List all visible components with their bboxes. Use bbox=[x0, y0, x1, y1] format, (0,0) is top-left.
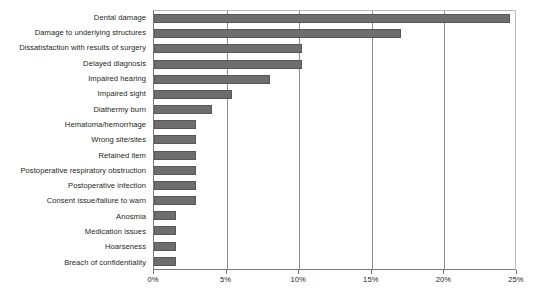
bar bbox=[154, 135, 196, 144]
bar-row bbox=[154, 26, 515, 41]
bar bbox=[154, 90, 232, 99]
bar bbox=[154, 14, 510, 23]
bar bbox=[154, 60, 302, 69]
category-label: Impaired sight bbox=[0, 86, 150, 101]
category-label: Anosmia bbox=[0, 209, 150, 224]
axis-tick-label: 10% bbox=[291, 275, 306, 284]
bar-row bbox=[154, 57, 515, 72]
bar bbox=[154, 29, 401, 38]
bar bbox=[154, 166, 196, 175]
category-label: Breach of confidentiality bbox=[0, 255, 150, 270]
bar bbox=[154, 75, 270, 84]
bar bbox=[154, 211, 176, 220]
category-label: Medication issues bbox=[0, 224, 150, 239]
category-axis-labels: Dental damageDamage to underlying struct… bbox=[0, 10, 150, 270]
bar-row bbox=[154, 178, 515, 193]
axis-tick-label: 15% bbox=[363, 275, 378, 284]
bar-row bbox=[154, 102, 515, 117]
bar-row bbox=[154, 254, 515, 269]
category-label: Postoperative respiratory obstruction bbox=[0, 163, 150, 178]
bar-row bbox=[154, 239, 515, 254]
axis-tick-mark bbox=[371, 270, 372, 274]
axis-tick-label: 5% bbox=[220, 275, 231, 284]
category-label: Dental damage bbox=[0, 10, 150, 25]
bar-row bbox=[154, 41, 515, 56]
bar-row bbox=[154, 163, 515, 178]
category-label: Dissatisfaction with results of surgery bbox=[0, 41, 150, 56]
category-label: Hematoma/hemorrhage bbox=[0, 117, 150, 132]
bar bbox=[154, 257, 176, 266]
category-label: Consent issue/failure to warn bbox=[0, 194, 150, 209]
axis-tick-label: 0% bbox=[147, 275, 158, 284]
bar bbox=[154, 181, 196, 190]
category-label: Delayed diagnosis bbox=[0, 56, 150, 71]
category-label: Wrong site/sites bbox=[0, 132, 150, 147]
plot-area bbox=[153, 10, 516, 270]
bar-row bbox=[154, 193, 515, 208]
bar-row bbox=[154, 87, 515, 102]
bar-row bbox=[154, 223, 515, 238]
category-label: Postoperative infection bbox=[0, 178, 150, 193]
bar bbox=[154, 226, 176, 235]
bar-row bbox=[154, 148, 515, 163]
bar-row bbox=[154, 132, 515, 147]
axis-tick-label: 25% bbox=[508, 275, 523, 284]
category-label: Damage to underlying structures bbox=[0, 25, 150, 40]
bar bbox=[154, 151, 196, 160]
axis-tick-mark bbox=[298, 270, 299, 274]
category-label: Diathermy burn bbox=[0, 102, 150, 117]
bar-row bbox=[154, 117, 515, 132]
axis-tick-mark bbox=[226, 270, 227, 274]
category-label: Impaired hearing bbox=[0, 71, 150, 86]
bar-chart: Dental damageDamage to underlying struct… bbox=[0, 0, 533, 294]
axis-tick-mark bbox=[153, 270, 154, 274]
bar-row bbox=[154, 11, 515, 26]
bar bbox=[154, 105, 212, 114]
axis-tick-mark bbox=[516, 270, 517, 274]
bar bbox=[154, 242, 176, 251]
axis-tick-mark bbox=[443, 270, 444, 274]
category-label: Hoarseness bbox=[0, 239, 150, 254]
bar bbox=[154, 44, 302, 53]
bar bbox=[154, 196, 196, 205]
axis-tick-label: 20% bbox=[436, 275, 451, 284]
bar-row bbox=[154, 208, 515, 223]
bars-layer bbox=[154, 11, 515, 269]
bar-row bbox=[154, 72, 515, 87]
category-label: Retained item bbox=[0, 148, 150, 163]
value-axis: 0%5%10%15%20%25% bbox=[153, 270, 516, 292]
bar bbox=[154, 120, 196, 129]
